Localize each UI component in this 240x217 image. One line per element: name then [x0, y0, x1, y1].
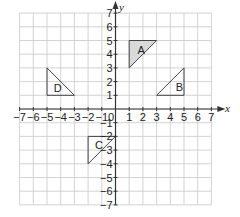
y-axis-label: y	[118, 1, 124, 13]
x-tick-label: −4	[54, 111, 67, 123]
y-tick-label: 2	[106, 76, 112, 88]
y-tick-label: −2	[100, 130, 113, 142]
x-tick-label: 3	[154, 111, 160, 123]
y-tick-label: 3	[106, 62, 112, 74]
triangle-label-d: D	[54, 82, 62, 94]
y-tick-label: 5	[106, 35, 112, 47]
triangle-label-b: B	[176, 81, 183, 93]
x-tick-label: −3	[68, 111, 81, 123]
x-tick-label: 4	[167, 111, 173, 123]
x-tick-label: 1	[126, 111, 132, 123]
y-tick-label: −4	[100, 158, 113, 170]
y-axis-arrow-icon	[113, 1, 119, 9]
x-tick-label: −7	[13, 111, 26, 123]
x-tick-label: 2	[140, 111, 146, 123]
x-tick-label: −2	[82, 111, 95, 123]
origin-label: 0	[108, 111, 114, 123]
axes	[20, 1, 226, 205]
x-tick-label: 6	[195, 111, 201, 123]
y-tick-label: −5	[100, 172, 113, 184]
y-tick-label: 4	[106, 48, 112, 60]
y-tick-label: 7	[106, 7, 112, 19]
y-tick-label: 6	[106, 21, 112, 33]
x-tick-label: −6	[27, 111, 40, 123]
coordinate-grid: ABCD −7−6−5−4−3−2−11234567−7−6−5−4−3−2−1…	[0, 0, 240, 217]
triangle-label-a: A	[137, 44, 145, 56]
x-tick-label: 7	[208, 111, 214, 123]
x-axis-label: x	[224, 102, 230, 114]
x-tick-label: −5	[41, 111, 54, 123]
y-tick-label: −7	[100, 199, 113, 211]
y-tick-label: −6	[100, 185, 113, 197]
y-tick-label: −3	[100, 144, 113, 156]
x-tick-label: 5	[181, 111, 187, 123]
y-tick-label: 1	[106, 89, 112, 101]
